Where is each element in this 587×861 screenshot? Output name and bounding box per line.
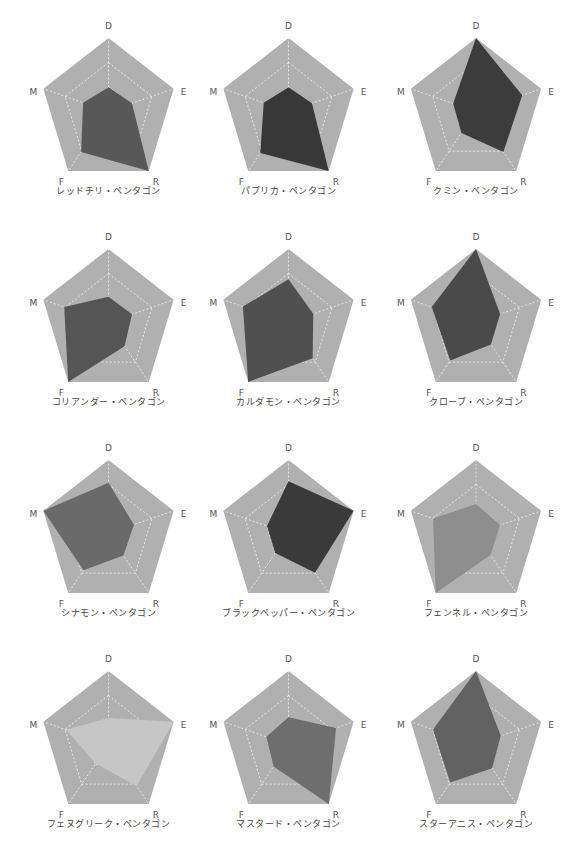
axis-label-e: E [181,720,187,730]
radar-chart: DERFM [209,654,366,820]
axis-label-d: D [473,654,480,664]
axis-label-d: D [105,654,112,664]
radar-chart: DERFM [29,232,186,398]
axis-label-m: M [397,298,405,308]
axis-label-m: M [209,298,217,308]
radar-chart: DERFM [29,443,186,609]
axis-label-d: D [473,443,480,453]
axis-label-d: D [473,21,480,31]
chart-title: カルダモン・ペンタゴン [199,395,379,408]
chart-title: ブラックペッパー・ペンタゴン [199,606,379,619]
axis-label-e: E [181,509,187,519]
axis-label-d: D [285,21,292,31]
chart-title: フェヌグリーク・ペンタゴン [19,817,199,830]
chart-title: クミン・ペンタゴン [386,184,566,197]
axis-label-e: E [361,298,367,308]
radar-chart: DERFM [397,654,554,820]
axis-label-e: E [548,509,554,519]
chart-title: シナモン・ペンタゴン [19,606,199,619]
axis-label-d: D [285,654,292,664]
axis-label-e: E [548,87,554,97]
axis-label-e: E [361,720,367,730]
axis-label-d: D [105,443,112,453]
chart-title: クローブ・ペンタゴン [386,395,566,408]
axis-label-m: M [29,298,37,308]
chart-title: フェンネル・ペンタゴン [386,606,566,619]
axis-label-m: M [397,720,405,730]
chart-title: スターアニス・ペンタゴン [386,817,566,830]
chart-title: コリアンダー・ペンタゴン [19,395,199,408]
axis-label-e: E [548,720,554,730]
axis-label-m: M [397,87,405,97]
axis-label-d: D [285,443,292,453]
axis-label-m: M [29,509,37,519]
radar-chart: DERFM [397,232,554,398]
radar-chart: DERFM [397,443,554,609]
radar-chart: DERFM [209,21,366,187]
axis-label-m: M [29,720,37,730]
axis-label-e: E [181,87,187,97]
radar-chart-grid: DERFMDERFMDERFMDERFMDERFMDERFMDERFMDERFM… [0,0,587,861]
axis-label-d: D [105,232,112,242]
axis-label-e: E [181,298,187,308]
axis-label-m: M [209,87,217,97]
chart-title: パプリカ・ペンタゴン [199,184,379,197]
radar-chart: DERFM [397,21,554,187]
radar-chart: DERFM [29,21,186,187]
chart-title: レッドチリ・ペンタゴン [19,184,199,197]
radar-chart: DERFM [209,232,366,398]
charts-svg: DERFMDERFMDERFMDERFMDERFMDERFMDERFMDERFM… [0,0,587,861]
axis-label-e: E [361,509,367,519]
axis-label-m: M [209,509,217,519]
axis-label-m: M [209,720,217,730]
axis-label-e: E [361,87,367,97]
axis-label-m: M [29,87,37,97]
axis-label-d: D [105,21,112,31]
radar-chart: DERFM [29,654,186,820]
chart-title: マスタード・ペンタゴン [199,817,379,830]
radar-chart: DERFM [209,443,366,609]
axis-label-e: E [548,298,554,308]
axis-label-m: M [397,509,405,519]
axis-label-d: D [473,232,480,242]
axis-label-d: D [285,232,292,242]
